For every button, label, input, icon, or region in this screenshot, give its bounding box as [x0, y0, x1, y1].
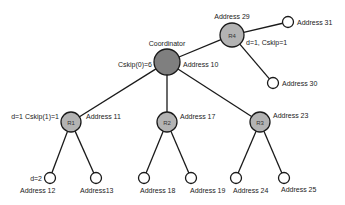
router-r1-label: R1 [67, 120, 75, 126]
router-r1-address-label: Address 11 [86, 113, 121, 120]
end-device-31-address-label: Address 31 [297, 19, 333, 26]
end-device-30-node [268, 78, 279, 89]
end-device-25-node [279, 173, 290, 184]
end-device-24-node [231, 173, 242, 184]
edge-r1-a12 [52, 131, 68, 172]
end-device-19-address-label: Address 19 [190, 187, 226, 194]
edge-r1-a13 [75, 131, 94, 173]
router-r2-address-label: Address 17 [180, 113, 216, 120]
coordinator-name-label: Coordinator [149, 40, 186, 47]
diagram-canvas: R4 R1 R2 R3 Coordinator Cskip(0)=6 Addre… [0, 0, 345, 205]
end-device-18-address-label: Address 18 [140, 187, 176, 194]
coordinator-address-label: Address 10 [183, 61, 219, 68]
edge-r4-a31 [244, 23, 283, 32]
edge-r4-a30 [240, 44, 270, 79]
coordinator-node [154, 49, 180, 75]
end-device-19-node [186, 173, 197, 184]
end-device-13-address-label: Address13 [80, 187, 114, 194]
router-r4-address-label: Address 29 [214, 13, 250, 20]
router-r4-label: R4 [228, 33, 236, 39]
end-device-30-address-label: Address 30 [282, 80, 318, 87]
edge-r3-a24 [238, 131, 256, 173]
edge-coordinator-r3 [178, 69, 252, 117]
router-r4-annotation-label: d=1, Cskip=1 [246, 39, 287, 47]
end-device-31-node [283, 17, 294, 28]
edge-r2-a18 [146, 131, 163, 173]
end-device-12-node [45, 173, 56, 184]
end-device-25-address-label: Address 25 [281, 186, 317, 193]
labels-group: Coordinator Cskip(0)=6 Address 10 Addres… [11, 13, 332, 194]
tree-diagram: R4 R1 R2 R3 Coordinator Cskip(0)=6 Addre… [0, 0, 345, 205]
router-r3-address-label: Address 23 [273, 112, 309, 119]
edge-coordinator-r1 [79, 69, 155, 117]
edge-r2-a19 [171, 131, 189, 173]
end-device-18-node [139, 173, 150, 184]
router-r3-label: R3 [256, 120, 264, 126]
end-device-24-address-label: Address 24 [233, 187, 269, 194]
router-r1-annotation-label: d=1 Cskip(1)=1 [11, 113, 59, 121]
router-r2-label: R2 [163, 120, 171, 126]
edge-r3-a25 [264, 131, 282, 173]
end-device-12-address-label: Address 12 [20, 187, 56, 194]
end-device-13-node [91, 173, 102, 184]
end-device-12-depth-label: d=2 [30, 175, 42, 182]
coordinator-cskip-label: Cskip(0)=6 [118, 61, 152, 69]
